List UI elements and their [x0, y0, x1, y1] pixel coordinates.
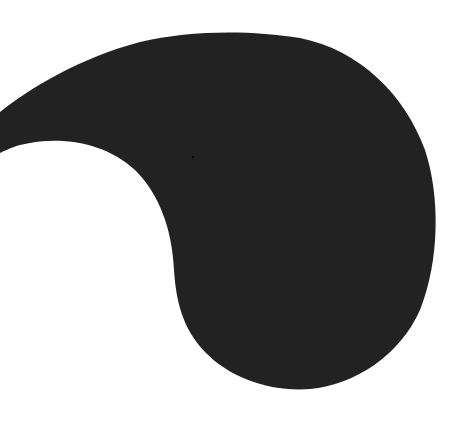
paisley-blob-shape: [0, 32, 436, 389]
speck: [192, 156, 194, 158]
canvas: [0, 0, 469, 425]
